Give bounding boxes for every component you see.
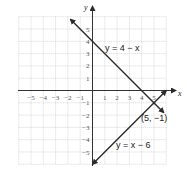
x-tick-label: 1 bbox=[103, 94, 107, 102]
x-tick-label: 4 bbox=[140, 94, 144, 102]
intersection-annotation: (5, −1) bbox=[141, 113, 167, 123]
y-tick-label: 2 bbox=[86, 62, 90, 70]
x-tick-label: −3 bbox=[52, 94, 60, 102]
x-tick-label: −2 bbox=[64, 94, 72, 102]
line-chart: x y −5−4−3−2−11234554321−1−2−3−4−5 y = 4… bbox=[0, 0, 195, 175]
y-axis-label: y bbox=[83, 3, 88, 12]
line-label-y-4-minus-x: y = 4 − x bbox=[105, 43, 140, 53]
intersection-point bbox=[153, 102, 155, 104]
y-tick-label: −3 bbox=[82, 124, 90, 132]
x-tick-label: 2 bbox=[115, 94, 119, 102]
y-tick-label: −1 bbox=[82, 99, 90, 107]
y-tick-label: −5 bbox=[82, 149, 90, 157]
y-tick-label: 1 bbox=[86, 75, 90, 83]
x-tick-label: −5 bbox=[27, 94, 35, 102]
y-tick-label: 3 bbox=[86, 50, 90, 58]
x-tick-label: 3 bbox=[128, 94, 132, 102]
line-label-y-x-minus-6: y = x − 6 bbox=[116, 140, 151, 150]
x-axis-label: x bbox=[177, 89, 182, 98]
y-tick-label: 5 bbox=[86, 26, 90, 34]
x-tick-label: −4 bbox=[40, 94, 48, 102]
y-tick-label: −2 bbox=[82, 112, 90, 120]
y-tick-label: −4 bbox=[82, 136, 90, 144]
